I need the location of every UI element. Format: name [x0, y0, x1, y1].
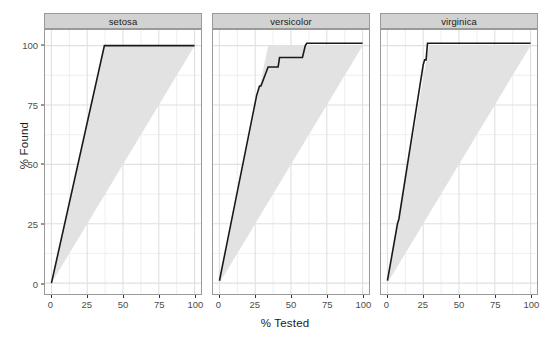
x-tick-mark	[459, 295, 460, 298]
panel-setosa: setosa	[44, 13, 202, 295]
x-axis-title: % Tested	[45, 317, 525, 329]
gain-chart-figure: % Found 0255075100 setosa versicolor vir…	[0, 0, 544, 345]
x-tick-label: 100	[524, 299, 540, 310]
panel-versicolor: versicolor	[212, 13, 370, 295]
x-tick-mark	[87, 295, 88, 298]
y-tick-label: 50	[0, 159, 44, 170]
x-tick-label: 50	[454, 299, 465, 310]
x-tick-mark	[159, 295, 160, 298]
y-tick-label: 75	[0, 99, 44, 110]
x-tick-mark	[423, 295, 424, 298]
x-tick-label: 50	[286, 299, 297, 310]
plot-area-setosa	[44, 29, 202, 295]
x-tick-label: 25	[417, 299, 428, 310]
x-tick-mark	[255, 295, 256, 298]
y-tick-label: 100	[0, 39, 44, 50]
y-axis: 0255075100	[0, 0, 44, 345]
facet-panels: setosa versicolor virginica 0255075100	[44, 0, 542, 345]
strip-text: versicolor	[270, 16, 312, 27]
x-tick-label: 75	[490, 299, 501, 310]
strip-text: virginica	[441, 16, 477, 27]
x-tick-mark	[363, 295, 364, 298]
plot-svg-virginica	[381, 30, 537, 294]
x-tick-label: 100	[188, 299, 204, 310]
strip-text: setosa	[109, 16, 138, 27]
plot-svg-setosa	[45, 30, 201, 294]
x-tick-label: 75	[322, 299, 333, 310]
x-tick-mark	[291, 295, 292, 298]
x-tick-label: 0	[216, 299, 221, 310]
plot-svg-versicolor	[213, 30, 369, 294]
y-tick-label: 0	[0, 279, 44, 290]
x-tick-mark	[123, 295, 124, 298]
x-axis-virginica: 0255075100	[380, 295, 538, 315]
x-tick-mark	[387, 295, 388, 298]
x-tick-label: 0	[48, 299, 53, 310]
x-tick-mark	[531, 295, 532, 298]
x-tick-label: 50	[118, 299, 129, 310]
x-tick-label: 75	[154, 299, 165, 310]
x-tick-mark	[195, 295, 196, 298]
x-axis-setosa: 0255075100	[44, 295, 202, 315]
x-tick-mark	[51, 295, 52, 298]
strip-label-virginica: virginica	[380, 13, 538, 29]
x-axis-versicolor: 0255075100	[212, 295, 370, 315]
x-tick-label: 100	[356, 299, 372, 310]
strip-label-versicolor: versicolor	[212, 13, 370, 29]
plot-area-virginica	[380, 29, 538, 295]
panel-virginica: virginica	[380, 13, 538, 295]
y-tick-label: 25	[0, 219, 44, 230]
plot-area-versicolor	[212, 29, 370, 295]
x-tick-label: 25	[249, 299, 260, 310]
x-tick-label: 0	[384, 299, 389, 310]
strip-label-setosa: setosa	[44, 13, 202, 29]
x-tick-label: 25	[81, 299, 92, 310]
x-tick-mark	[327, 295, 328, 298]
x-tick-mark	[219, 295, 220, 298]
x-tick-mark	[495, 295, 496, 298]
